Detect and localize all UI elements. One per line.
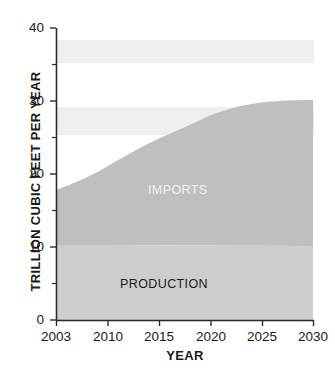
x-axis-title: YEAR [56, 348, 314, 363]
y-tick-label-0: 0 [8, 313, 44, 327]
x-tick-label-2020: 2020 [189, 330, 233, 344]
series-label-production: PRODUCTION [120, 277, 208, 291]
x-tick-label-2030: 2030 [291, 330, 335, 344]
series-label-imports: IMPORTS [148, 183, 208, 197]
x-tick-label-2025: 2025 [240, 330, 284, 344]
y-axis-title: TRILLION CUBIC FEET PER YEAR [28, 67, 43, 297]
x-tick-label-2010: 2010 [86, 330, 130, 344]
y-axis-major-ticks [50, 28, 56, 320]
x-tick-label-2015: 2015 [137, 330, 181, 344]
x-tick-label-2003: 2003 [34, 330, 78, 344]
y-tick-label-40: 40 [8, 21, 44, 35]
area-chart: 40 30 20 10 0 2003 2010 2015 2020 2025 2… [0, 0, 335, 368]
